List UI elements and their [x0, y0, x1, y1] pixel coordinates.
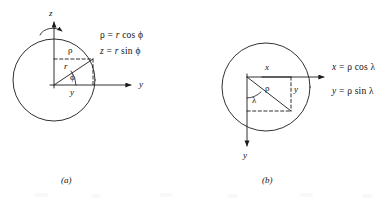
coordinate-conversion-figure	[0, 0, 391, 200]
scan-artifact	[362, 194, 373, 198]
panel-a-rho-label: ρ	[68, 45, 73, 55]
panel-a-y-axis-label: y	[139, 79, 143, 89]
scan-artifact	[160, 193, 172, 197]
panel-b-y-segment-label: y	[294, 84, 298, 94]
panel-b-graphic	[222, 43, 324, 146]
panel-b-angle-label: λ	[252, 95, 256, 105]
panel-a-angle-label: ϕ	[70, 72, 75, 82]
eq-a2-rel: =	[106, 46, 112, 56]
panel-a-equation-2: z = r sin ϕ	[100, 46, 141, 56]
eq-a1-rel: =	[108, 30, 114, 40]
scan-artifact	[34, 193, 48, 197]
scan-artifact	[228, 194, 238, 198]
panel-b-y-axis-label: y	[243, 150, 247, 160]
eq-b1-var: ρ	[347, 62, 352, 72]
eq-a1-angle: ϕ	[138, 30, 143, 40]
eq-a2-angle: ϕ	[135, 46, 140, 56]
eq-a2-fn: sin	[121, 46, 133, 56]
panel-b-rho-label: ρ	[265, 83, 270, 93]
eq-b2-fn: sin	[355, 86, 367, 96]
eq-b2-var: ρ	[347, 86, 352, 96]
eq-a2-lhs: z	[100, 46, 104, 56]
scan-artifact	[300, 193, 313, 197]
eq-b1-lhs: x	[332, 62, 336, 72]
panel-a-equation-1: ρ = r cos ϕ	[100, 30, 143, 40]
panel-a-rotation-arrow	[40, 28, 62, 35]
eq-b1-angle: λ	[371, 62, 376, 72]
eq-b2-rel: =	[339, 86, 345, 96]
eq-b1-fn: cos	[355, 62, 368, 72]
panel-a-base-label: y	[70, 87, 74, 97]
panel-a-caption: (a)	[61, 175, 72, 185]
eq-a2-var: r	[115, 46, 119, 56]
panel-b-x-segment-label: x	[265, 62, 269, 72]
eq-b2-lhs: y	[332, 86, 336, 96]
eq-a1-var: r	[116, 30, 120, 40]
eq-a1-fn: cos	[122, 30, 135, 40]
panel-a-z-axis-label: z	[49, 8, 53, 18]
eq-b2-angle: λ	[369, 86, 374, 96]
panel-b-equation-2: y = ρ sin λ	[332, 86, 374, 96]
eq-a1-lhs: ρ	[100, 30, 105, 40]
eq-b1-rel: =	[339, 62, 345, 72]
panel-a-r-label: r	[64, 61, 68, 71]
panel-b-equation-1: x = ρ cos λ	[332, 62, 375, 72]
panel-b-caption: (b)	[262, 175, 273, 185]
scan-artifact	[92, 194, 101, 198]
